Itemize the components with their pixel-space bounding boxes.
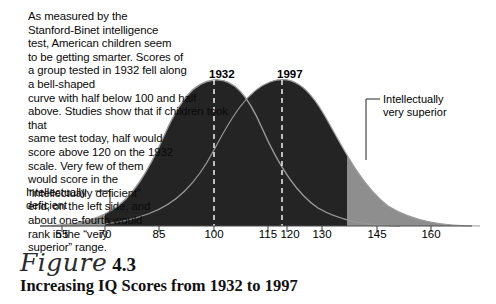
body-line-11: rank in the “very xyxy=(28,228,488,242)
body-line-5: score above 120 on the 1932 xyxy=(28,146,488,160)
body-line-4: same test today, half would xyxy=(28,132,488,146)
caption-figure-number: 4.3 xyxy=(112,254,136,276)
caption-heading-row: Figure 4.3 xyxy=(20,250,490,278)
body-line-6: scale. Very few of them xyxy=(28,160,488,174)
body-line-10: about one-fourth would xyxy=(28,214,488,228)
body-line-9: end, on the left side, and xyxy=(28,200,488,214)
caption-figure-word: Figure xyxy=(20,250,107,276)
body-line-8: “intellectually deficient” xyxy=(28,187,488,201)
figure-body-text: As measured by the Stanford-Binet intell… xyxy=(28,10,488,255)
figure-container: 55 70 85 100 115 120 130 145 160 1932 19… xyxy=(0,0,496,304)
figure-caption: Figure 4.3 Increasing IQ Scores from 193… xyxy=(20,250,490,296)
caption-title: Increasing IQ Scores from 1932 to 1997 xyxy=(20,276,490,296)
body-line-7: would score in the xyxy=(28,173,488,187)
